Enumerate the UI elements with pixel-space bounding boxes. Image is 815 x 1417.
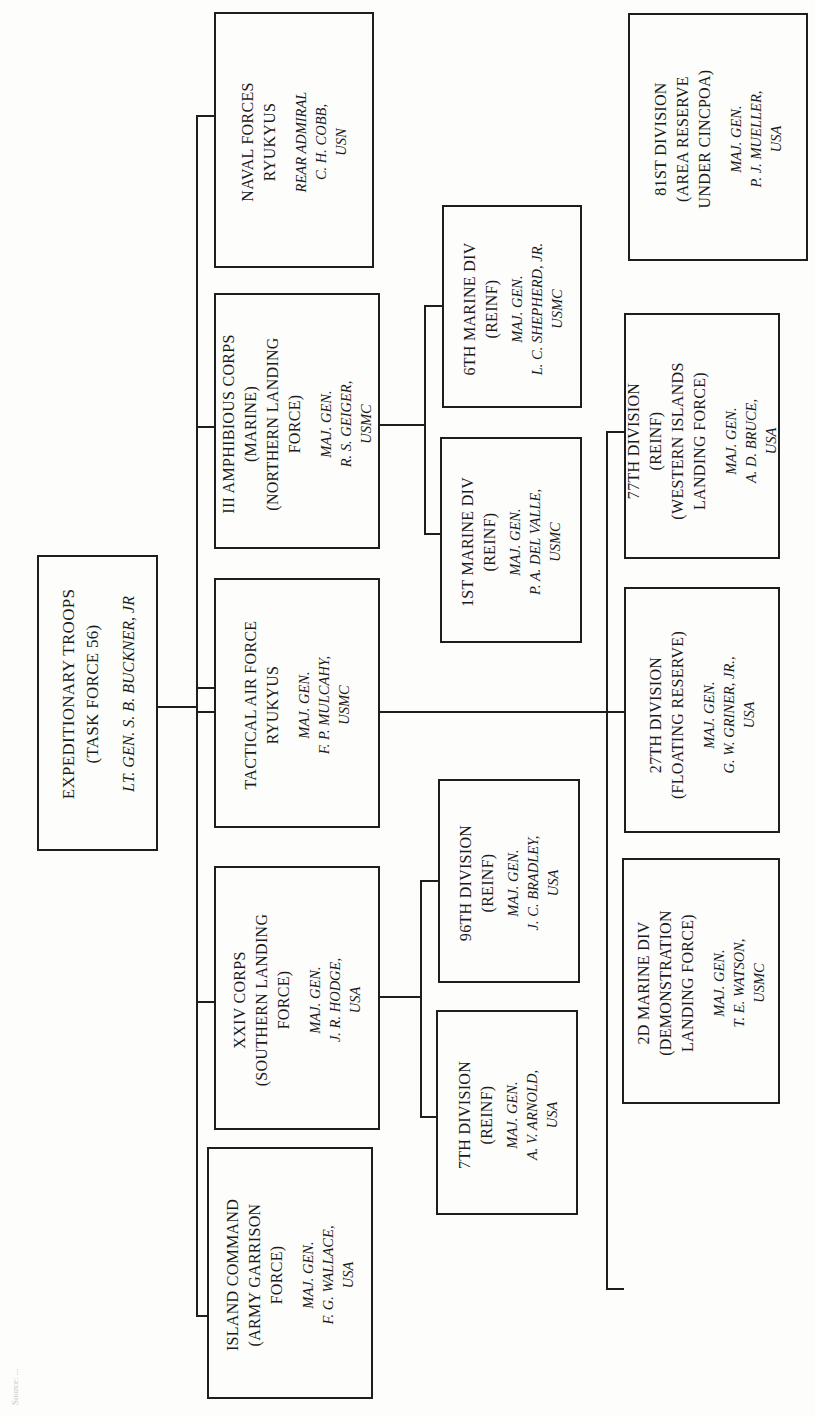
source-footnote: Source: ... — [10, 1369, 20, 1406]
unit-name: 96TH DIVISION — [455, 781, 477, 985]
org-node-iii-amphibious-corps: III AMPHIBIOUS CORPS(MARINE)(NORTHERN LA… — [214, 293, 380, 549]
node-text: 77TH DIVISION(REINF)(WESTERN ISLANDSLAND… — [623, 318, 781, 564]
commander-name: F. G. WALLACE, — [318, 1149, 338, 1401]
commander-service: USMC — [749, 860, 769, 1106]
node-text: ISLAND COMMAND(ARMY GARRISONFORCE) MAJ. … — [222, 1149, 358, 1401]
unit-name: (NORTHERN LANDING — [262, 296, 284, 552]
commander-service: USMC — [547, 207, 567, 410]
commander-service: USA — [761, 318, 781, 564]
commander-service: USMC — [545, 439, 565, 645]
unit-name: 6TH MARINE DIV — [459, 207, 481, 410]
unit-name: (WESTERN ISLANDS — [667, 318, 689, 564]
connector — [196, 687, 214, 689]
connector — [420, 880, 422, 1118]
commander-name: R. S. GEIGER, — [336, 296, 356, 552]
unit-name: (AREA RESERVE — [672, 15, 694, 263]
org-node-xxiv-corps: XXIV CORPS(SOUTHERN LANDINGFORCE) MAJ. G… — [214, 866, 380, 1130]
commander-rank: MAJ. GEN. — [507, 207, 527, 410]
unit-name: (DEMONSTRATION — [655, 860, 677, 1106]
unit-name: UNDER CINCPOA) — [694, 15, 716, 263]
unit-name: FORCE) — [273, 868, 295, 1132]
commander-rank: MAJ. GEN. — [316, 296, 336, 552]
unit-name: (FLOATING RESERVE) — [667, 592, 689, 838]
unit-name: 2D MARINE DIV — [633, 860, 655, 1106]
node-text: XXIV CORPS(SOUTHERN LANDINGFORCE) MAJ. G… — [229, 868, 365, 1132]
connector — [196, 1001, 214, 1003]
node-text: 81ST DIVISION(AREA RESERVEUNDER CINCPOA)… — [650, 15, 786, 263]
unit-name: FORCE) — [284, 296, 306, 552]
unit-name: XXIV CORPS — [229, 868, 251, 1132]
org-node-2d-marine-div: 2D MARINE DIV(DEMONSTRATIONLANDING FORCE… — [622, 858, 780, 1104]
org-node-77th-division: 77TH DIVISION(REINF)(WESTERN ISLANDSLAND… — [624, 313, 780, 559]
unit-name: (MARINE) — [240, 296, 262, 552]
connector — [196, 115, 198, 1315]
unit-name: EXPEDITIONARY TROOPS — [57, 546, 81, 842]
commander-service: USMC — [356, 296, 376, 552]
connector — [606, 431, 624, 433]
org-node-96th-division: 96TH DIVISION(REINF) MAJ. GEN.J. C. BRAD… — [438, 779, 580, 983]
connector — [424, 305, 426, 535]
node-text: III AMPHIBIOUS CORPS(MARINE)(NORTHERN LA… — [218, 296, 376, 552]
connector — [424, 305, 442, 307]
unit-name: FORCE) — [266, 1149, 288, 1401]
unit-name: III AMPHIBIOUS CORPS — [218, 296, 240, 552]
unit-name: (ARMY GARRISON — [244, 1149, 266, 1401]
connector — [380, 424, 426, 426]
unit-name: LANDING FORCE) — [689, 318, 711, 564]
commander-name: J. R. HODGE, — [325, 868, 345, 1132]
node-text: 7TH DIVISION(REINF) MAJ. GEN.A. V. ARNOL… — [454, 1012, 562, 1217]
unit-name: 1ST MARINE DIV — [457, 439, 479, 645]
node-text: 6TH MARINE DIV(REINF) MAJ. GEN.L. C. SHE… — [459, 207, 567, 410]
unit-name: TACTICAL AIR FORCE — [240, 580, 262, 830]
unit-name: (REINF) — [645, 318, 667, 564]
commander-name: LT. GEN. S. B. BUCKNER, JR — [119, 546, 139, 842]
unit-name: LANDING FORCE) — [677, 860, 699, 1106]
node-text: 2D MARINE DIV(DEMONSTRATIONLANDING FORCE… — [633, 860, 769, 1106]
unit-name: (REINF) — [476, 1012, 498, 1217]
commander-name: P. J. MUELLER, — [746, 15, 766, 263]
unit-name: RYUKYUS — [259, 14, 281, 270]
connector — [606, 431, 608, 1290]
commander-service: USA — [338, 1149, 358, 1401]
connector — [420, 880, 438, 882]
unit-name: (REINF) — [479, 439, 501, 645]
org-node-7th-division: 7TH DIVISION(REINF) MAJ. GEN.A. V. ARNOL… — [436, 1010, 578, 1215]
unit-designation: (TASK FORCE 56) — [81, 546, 105, 842]
unit-name: 81ST DIVISION — [650, 15, 672, 263]
org-node-1st-marine-div: 1ST MARINE DIV(REINF) MAJ. GEN.P. A. DEL… — [440, 437, 582, 643]
connector — [380, 996, 422, 998]
commander-service: USA — [543, 781, 563, 985]
org-node-27th-division: 27TH DIVISION(FLOATING RESERVE) MAJ. GEN… — [624, 587, 780, 833]
commander-service: USA — [766, 15, 786, 263]
commander-rank: MAJ. GEN. — [699, 592, 719, 838]
commander-service: USN — [331, 14, 351, 270]
commander-name: J. C. BRADLEY, — [523, 781, 543, 985]
unit-name: ISLAND COMMAND — [222, 1149, 244, 1401]
commander-name: A. V. ARNOLD, — [522, 1012, 542, 1217]
commander-rank: REAR ADMIRAL — [291, 14, 311, 270]
unit-name: 77TH DIVISION — [623, 318, 645, 564]
commander-service: USA — [542, 1012, 562, 1217]
unit-name: (SOUTHERN LANDING — [251, 868, 273, 1132]
node-text: 27TH DIVISION(FLOATING RESERVE) MAJ. GEN… — [645, 592, 759, 838]
node-text: 1ST MARINE DIV(REINF) MAJ. GEN.P. A. DEL… — [457, 439, 565, 645]
commander-name: F. P. MULCAHY, — [314, 580, 334, 830]
connector — [606, 1288, 624, 1290]
commander-rank: MAJ. GEN. — [502, 1012, 522, 1217]
commander-service: USA — [739, 592, 759, 838]
unit-name: 27TH DIVISION — [645, 592, 667, 838]
org-node-naval-forces-ryukyus: NAVAL FORCESRYUKYUS REAR ADMIRALC. H. CO… — [214, 12, 374, 268]
commander-rank: MAJ. GEN. — [726, 15, 746, 263]
node-text: NAVAL FORCESRYUKYUS REAR ADMIRALC. H. CO… — [237, 14, 351, 270]
unit-name: NAVAL FORCES — [237, 14, 259, 270]
commander-service: USMC — [334, 580, 354, 830]
commander-rank: MAJ. GEN. — [505, 439, 525, 645]
unit-name: 7TH DIVISION — [454, 1012, 476, 1217]
unit-name: (REINF) — [481, 207, 503, 410]
commander-name: A. D. BRUCE, — [741, 318, 761, 564]
connector — [196, 115, 214, 117]
unit-name: RYUKYUS — [262, 580, 284, 830]
commander-service: USA — [345, 868, 365, 1132]
unit-name: (REINF) — [477, 781, 499, 985]
node-text: EXPEDITIONARY TROOPS (TASK FORCE 56) LT.… — [57, 546, 139, 842]
